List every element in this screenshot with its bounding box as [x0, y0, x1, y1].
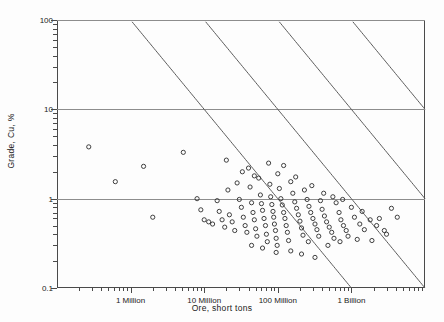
scatter-point [87, 145, 91, 149]
scatter-point [181, 150, 185, 154]
scatter-point [332, 236, 336, 240]
scatter-point [260, 246, 264, 250]
scatter-point [237, 197, 241, 201]
scatter-point [283, 216, 287, 220]
scatter-point [289, 249, 293, 253]
scatter-point [195, 197, 199, 201]
scatter-point [294, 175, 298, 179]
scatter-point [349, 205, 353, 209]
scatter-point [210, 222, 214, 226]
scatter-point [322, 214, 326, 218]
scatter-point [226, 188, 230, 192]
scatter-point [220, 218, 224, 222]
scatter-point [395, 215, 399, 219]
scatter-point [299, 252, 303, 256]
scatter-points [57, 20, 425, 288]
scatter-point [331, 195, 335, 199]
scatter-point [224, 158, 228, 162]
scatter-point [259, 202, 263, 206]
plot-area [57, 20, 425, 288]
scatter-point [255, 234, 259, 238]
x-axis-title: Ore, short tons [0, 303, 444, 313]
scatter-point [274, 236, 278, 240]
scatter-point [344, 228, 348, 232]
scatter-point [271, 209, 275, 213]
scatter-point [276, 172, 280, 176]
scatter-point [275, 243, 279, 247]
scatter-point [239, 205, 243, 209]
scatter-point [315, 228, 319, 232]
scatter-point [307, 204, 311, 208]
scatter-point [265, 240, 269, 244]
scatter-point [113, 180, 117, 184]
scatter-point [285, 230, 289, 234]
scatter-point [257, 176, 261, 180]
scatter-point [339, 218, 343, 222]
scatter-point [273, 228, 277, 232]
scatter-point [389, 206, 393, 210]
scatter-point [254, 227, 258, 231]
scatter-point [293, 200, 297, 204]
scatter-point [286, 238, 290, 242]
scatter-point [235, 181, 239, 185]
scatter-point [338, 240, 342, 244]
scatter-point [245, 230, 249, 234]
scatter-point [240, 170, 244, 174]
scatter-point [352, 215, 356, 219]
scatter-point [141, 164, 145, 168]
scatter-point [360, 209, 364, 213]
scatter-point [272, 215, 276, 219]
scatter-point [277, 186, 281, 190]
scatter-point [334, 201, 338, 205]
scatter-point [248, 185, 252, 189]
scatter-point [296, 213, 300, 217]
scatter-point [305, 197, 309, 201]
scatter-point [322, 191, 326, 195]
scatter-point [262, 216, 266, 220]
scatter-point [274, 250, 278, 254]
scatter-point [298, 219, 302, 223]
scatter-point [313, 255, 317, 259]
scatter-point [306, 240, 310, 244]
scatter-point [227, 213, 231, 217]
scatter-point [207, 220, 211, 224]
scatter-point [230, 220, 234, 224]
scatter-point [337, 210, 341, 214]
scatter-point [358, 222, 362, 226]
scatter-point [324, 220, 328, 224]
scatter-point [263, 223, 267, 227]
scatter-point [199, 208, 203, 212]
scatter-point [268, 182, 272, 186]
scatter-point [280, 203, 284, 207]
y-tick-major [51, 288, 57, 289]
scatter-point [252, 174, 256, 178]
scatter-point [309, 210, 313, 214]
scatter-point [355, 237, 359, 241]
scatter-point [260, 208, 264, 212]
scatter-point [267, 161, 271, 165]
scatter-point [301, 233, 305, 237]
scatter-point [249, 243, 253, 247]
scatter-point [246, 166, 250, 170]
scatter-point [270, 202, 274, 206]
scatter-point [377, 216, 381, 220]
scatter-point [284, 223, 288, 227]
scatter-point [202, 218, 206, 222]
scatter-point [243, 223, 247, 227]
scatter-point [299, 226, 303, 230]
scatter-point [217, 209, 221, 213]
scatter-point [279, 197, 283, 201]
scatter-point [269, 195, 273, 199]
scatter-point [282, 210, 286, 214]
scatter-point [289, 180, 293, 184]
scatter-point [318, 199, 322, 203]
scatter-point [151, 215, 155, 219]
y-axis-title: Grade, Cu, % [6, 86, 16, 196]
scatter-point [341, 197, 345, 201]
scatter-point [251, 210, 255, 214]
scatter-point [320, 207, 324, 211]
chart-figure: 0.1110100 1 Million10 Million100 Million… [0, 0, 444, 322]
scatter-point [294, 206, 298, 210]
scatter-point [346, 234, 350, 238]
scatter-point [264, 232, 268, 236]
